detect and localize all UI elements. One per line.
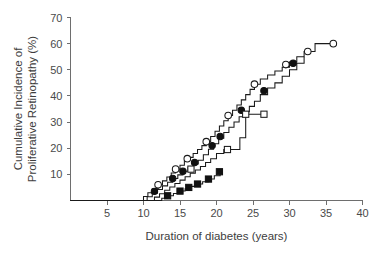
marker-filled-circle-1-0 xyxy=(151,188,157,194)
cumulative-incidence-chart: 10203040506070510152025303540Duration of… xyxy=(0,0,376,254)
y-axis-title-line1: Cumulative Incidence of xyxy=(12,47,24,171)
marker-filled-circle-1-5 xyxy=(217,133,223,139)
marker-filled-square-3-3 xyxy=(194,181,200,187)
marker-filled-square-3-1 xyxy=(177,188,183,194)
marker-open-circle-0-8 xyxy=(330,40,337,47)
y-tick-label: 50 xyxy=(50,64,62,76)
marker-filled-square-3-4 xyxy=(205,176,211,182)
marker-open-circle-0-4 xyxy=(225,112,232,119)
x-tick-label: 5 xyxy=(104,207,110,219)
marker-open-square-2-0 xyxy=(188,166,194,172)
marker-filled-square-3-0 xyxy=(164,193,170,199)
x-axis-title: Duration of diabetes (years) xyxy=(146,230,288,242)
marker-open-circle-0-6 xyxy=(283,61,290,68)
marker-filled-square-3-5 xyxy=(216,169,222,175)
step-curve-series-0 xyxy=(71,44,334,201)
marker-open-circle-0-7 xyxy=(304,48,311,55)
x-tick-label: 20 xyxy=(210,207,222,219)
marker-open-circle-0-3 xyxy=(203,138,210,145)
marker-open-square-2-3 xyxy=(261,111,267,117)
x-tick-label: 25 xyxy=(247,207,259,219)
x-tick-label: 40 xyxy=(356,207,368,219)
marker-filled-square-3-2 xyxy=(186,184,192,190)
marker-filled-circle-1-3 xyxy=(191,159,197,165)
y-tick-label: 30 xyxy=(50,116,62,128)
x-tick-label: 35 xyxy=(320,207,332,219)
marker-filled-circle-1-1 xyxy=(170,175,176,181)
y-axis-title-line2: Proliferative Retinopathy (%) xyxy=(26,36,38,183)
marker-filled-circle-1-4 xyxy=(209,142,215,148)
y-tick-label: 70 xyxy=(50,12,62,24)
chart-figure: 10203040506070510152025303540Duration of… xyxy=(0,0,376,254)
x-tick-label: 30 xyxy=(283,207,295,219)
marker-open-circle-0-1 xyxy=(172,166,179,173)
marker-open-circle-0-5 xyxy=(251,81,258,88)
marker-filled-circle-1-2 xyxy=(180,168,186,174)
step-curve-series-1 xyxy=(71,57,305,201)
y-tick-label: 40 xyxy=(50,90,62,102)
x-tick-label: 10 xyxy=(137,207,149,219)
curves-group xyxy=(71,44,334,201)
step-curve-series-2 xyxy=(71,114,264,200)
marker-filled-circle-1-8 xyxy=(290,60,296,66)
marker-open-circle-0-2 xyxy=(184,155,191,162)
y-tick-label: 20 xyxy=(50,142,62,154)
marker-open-square-2-1 xyxy=(224,146,230,152)
y-tick-label: 10 xyxy=(50,168,62,180)
y-tick-label: 60 xyxy=(50,38,62,50)
marker-open-circle-0-0 xyxy=(155,182,162,189)
x-tick-label: 15 xyxy=(174,207,186,219)
marker-filled-circle-1-7 xyxy=(261,88,267,94)
marker-open-square-2-2 xyxy=(243,111,249,117)
